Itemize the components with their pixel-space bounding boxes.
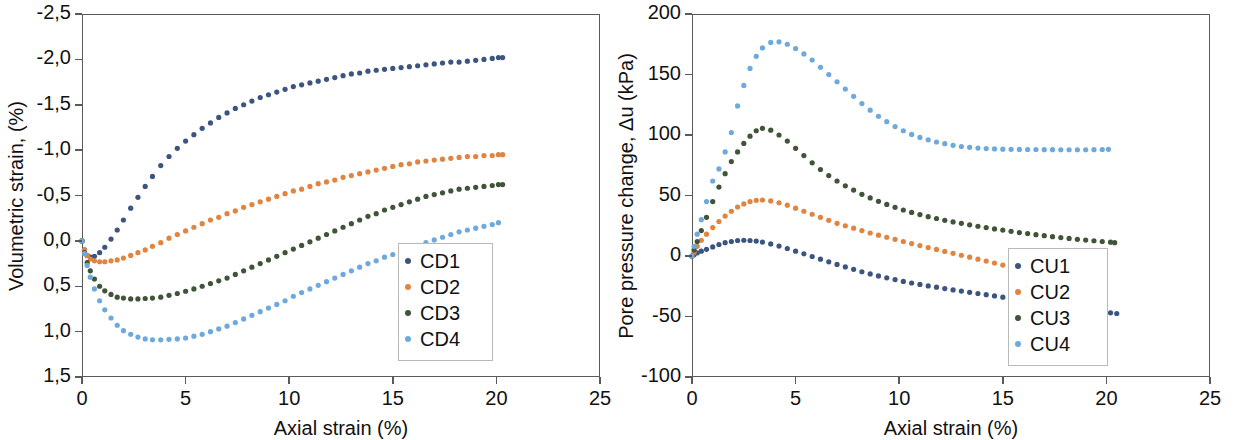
data-point [851,226,856,231]
data-point [340,73,345,78]
data-point [851,94,856,99]
x-tick-mark [288,377,290,384]
volumetric-strain-panel: -2,5-2,0-1,5-1,0-0,50,00,51,01,505101520… [0,0,620,434]
data-point [102,245,107,250]
data-point [1008,229,1013,234]
data-point [128,296,133,301]
data-point [128,206,133,211]
data-point [942,286,947,291]
legend-item-cd3[interactable]: CD3 [405,300,483,326]
x-tick-label: 25 [1180,387,1239,410]
data-point [166,154,171,159]
data-point [959,253,964,258]
data-point [143,336,148,341]
series-layer-cu [620,0,1239,434]
data-point [747,134,752,139]
data-point [818,167,823,172]
x-tick-label: 5 [766,387,826,410]
x-tick-label: 5 [156,387,216,410]
data-point [465,227,470,232]
x-tick-mark [691,377,693,384]
data-point [917,243,922,248]
data-point [324,179,329,184]
y-tick-label: -100 [611,364,681,387]
data-point [843,86,848,91]
data-point [216,215,221,220]
data-point [200,126,205,131]
data-point [801,251,806,256]
data-point [224,110,229,115]
y-tick-mark [685,74,692,76]
data-point [942,249,947,254]
data-point [349,221,354,226]
data-point [704,199,709,204]
legend-label: CD3 [420,303,460,323]
data-point [735,238,740,243]
legend-item-cu4[interactable]: CU4 [1015,331,1098,357]
data-point [1075,237,1080,242]
data-point [500,152,505,157]
data-point [233,272,238,277]
x-axis-label-cd: Axial strain (%) [82,417,600,440]
data-point [266,92,271,97]
data-point [448,60,453,65]
data-point [793,249,798,254]
data-point [1108,310,1113,315]
legend-marker-icon [405,310,411,316]
legend-item-cu3[interactable]: CU3 [1015,305,1098,331]
data-point [1033,232,1038,237]
data-point [859,192,864,197]
legend-item-cd1[interactable]: CD1 [405,248,483,274]
legend-item-cu2[interactable]: CU2 [1015,279,1098,305]
legend-item-cd4[interactable]: CD4 [405,326,483,352]
pore-pressure-panel: -100-500501001502000510152025 Pore press… [620,0,1239,434]
legend-marker-icon [1015,289,1021,295]
data-point [332,228,337,233]
data-point [481,153,486,158]
data-point [984,225,989,230]
data-point [208,329,213,334]
data-point [200,221,205,226]
legend-marker-icon [405,284,411,290]
x-tick-mark [81,377,83,384]
data-point [729,239,734,244]
data-point [1112,240,1117,245]
data-point [1091,147,1096,152]
x-tick-mark [599,377,601,384]
data-point [859,101,864,106]
data-point [97,284,102,289]
data-point [768,241,773,246]
data-point [909,241,914,246]
data-point [716,242,721,247]
data-point [316,181,321,186]
data-point [754,239,759,244]
x-tick-mark [1209,377,1211,384]
x-axis-label-cu: Axial strain (%) [692,417,1210,440]
data-point [374,167,379,172]
data-point [699,217,704,222]
data-point [859,228,864,233]
data-point [291,84,296,89]
data-point [917,282,922,287]
data-point [349,173,354,178]
data-point [834,221,839,226]
data-point [481,57,486,62]
data-point [249,265,254,270]
data-point [473,185,478,190]
data-point [967,145,972,150]
data-point [216,326,221,331]
data-point [868,271,873,276]
data-point [500,182,505,187]
data-point [191,132,196,137]
data-point [191,334,196,339]
data-point [699,249,704,254]
data-point [307,80,312,85]
data-point [249,202,254,207]
legend-item-cd2[interactable]: CD2 [405,274,483,300]
data-point [967,255,972,260]
data-point [407,64,412,69]
data-point [984,258,989,263]
data-point [801,209,806,214]
x-tick-mark [795,377,797,384]
legend-item-cu1[interactable]: CU1 [1015,253,1098,279]
